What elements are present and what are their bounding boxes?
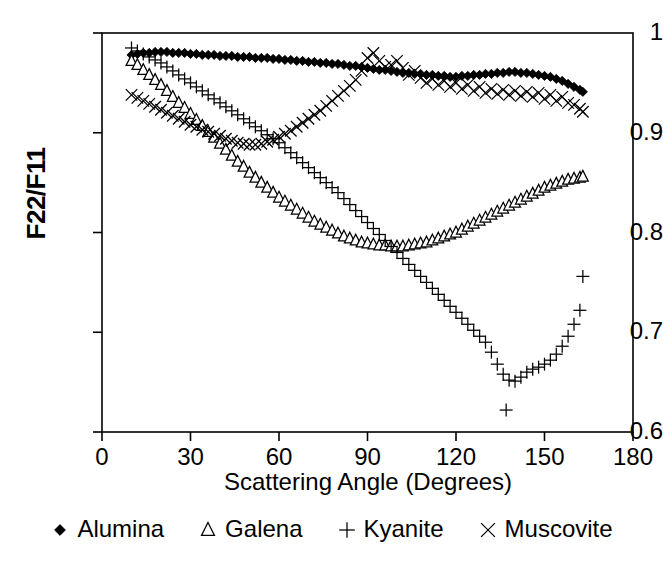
data-point — [438, 294, 451, 307]
data-point — [349, 204, 362, 217]
data-point — [303, 113, 315, 125]
data-point — [297, 117, 309, 128]
data-point — [509, 85, 521, 97]
data-point — [500, 404, 513, 417]
data-point — [486, 83, 498, 95]
data-point — [285, 125, 297, 137]
data-point — [461, 318, 474, 331]
data-point — [350, 74, 362, 86]
data-point — [550, 348, 563, 361]
data-point — [338, 85, 350, 97]
open-triangle-icon — [198, 517, 218, 541]
x-axis-tick-label: 150 — [515, 445, 575, 469]
x-axis-tick-label: 0 — [72, 445, 132, 469]
data-point — [492, 88, 504, 100]
data-point — [326, 95, 338, 107]
data-point — [526, 363, 539, 376]
data-point — [562, 330, 575, 343]
data-point — [408, 264, 421, 277]
y-axis-tick-label: 0.6 — [577, 419, 663, 443]
data-point — [551, 95, 563, 107]
data-point — [577, 106, 589, 118]
data-point — [444, 81, 456, 93]
data-point — [497, 84, 509, 96]
data-point — [361, 216, 374, 229]
data-point — [420, 276, 433, 289]
data-point — [362, 52, 374, 64]
data-point — [343, 198, 356, 211]
data-point — [337, 192, 350, 205]
filled-diamond-icon — [50, 517, 70, 541]
data-point — [515, 90, 527, 102]
legend-label: Alumina — [77, 515, 164, 543]
data-point — [503, 374, 516, 387]
y-axis-tick-label: 0.9 — [577, 120, 663, 144]
data-point — [309, 109, 321, 121]
data-point — [391, 55, 403, 67]
data-point — [320, 100, 332, 112]
data-point — [456, 83, 468, 95]
data-point — [368, 47, 380, 59]
data-point — [339, 522, 355, 538]
data-point — [539, 93, 551, 105]
x-axis-tick-label: 180 — [603, 445, 663, 469]
data-point — [485, 346, 498, 359]
data-point — [55, 525, 66, 536]
data-point — [479, 336, 492, 349]
plus-icon — [337, 517, 357, 541]
data-point — [481, 523, 495, 537]
data-point — [332, 90, 344, 102]
data-point — [432, 288, 445, 301]
y-axis-tick-label: 0.7 — [577, 319, 663, 343]
data-point — [556, 340, 569, 353]
data-point — [291, 121, 303, 133]
data-point — [402, 258, 415, 271]
legend-item-muscovite: Muscovite — [478, 515, 613, 543]
data-point — [373, 228, 386, 241]
chart-legend: AluminaGalenaKyaniteMuscovite — [0, 515, 663, 543]
data-point — [396, 252, 409, 265]
x-axis-tick-label: 120 — [426, 445, 486, 469]
data-point — [503, 89, 514, 101]
legend-label: Kyanite — [364, 515, 444, 543]
data-point — [527, 91, 539, 103]
data-point — [491, 358, 504, 371]
data-point — [414, 270, 427, 283]
data-point — [450, 306, 463, 319]
data-point — [468, 85, 480, 97]
legend-item-alumina: Alumina — [50, 515, 164, 543]
series-galena — [126, 55, 588, 251]
y-axis-tick-label: 0.8 — [577, 220, 663, 244]
x-axis-tick-label: 90 — [338, 445, 398, 469]
legend-item-galena: Galena — [198, 515, 302, 543]
legend-label: Muscovite — [505, 515, 613, 543]
data-point — [576, 270, 589, 283]
data-point — [573, 304, 586, 317]
data-point — [497, 368, 510, 381]
x-axis-title: Scattering Angle (Degrees) — [102, 468, 634, 496]
data-point — [455, 312, 468, 325]
plot-frame — [102, 33, 633, 432]
data-point — [315, 105, 327, 117]
data-point — [473, 330, 486, 343]
data-point — [521, 86, 533, 98]
data-point — [202, 523, 215, 536]
x-axis-tick-label: 30 — [161, 445, 221, 469]
legend-item-kyanite: Kyanite — [337, 515, 444, 543]
data-point — [467, 324, 480, 337]
data-point — [426, 282, 439, 295]
data-point — [532, 361, 545, 374]
x-axis-tick-label: 60 — [249, 445, 309, 469]
legend-label: Galena — [225, 515, 302, 543]
data-point — [480, 87, 492, 99]
y-axis-tick-label: 1 — [577, 20, 663, 44]
data-point — [367, 222, 380, 235]
data-point — [355, 210, 368, 223]
chart-figure: F22/F11 Scattering Angle (Degrees) Alumi… — [0, 0, 663, 566]
data-point — [444, 300, 457, 313]
cross-icon — [478, 517, 498, 541]
